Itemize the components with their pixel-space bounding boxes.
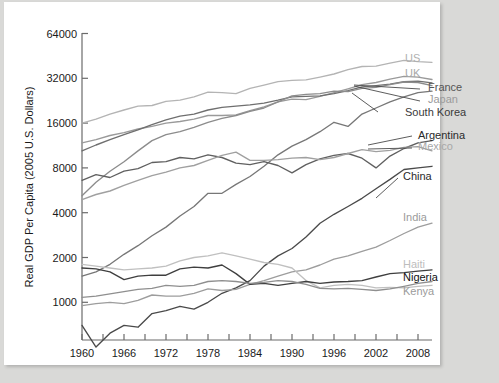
series-label-japan: Japan bbox=[428, 93, 458, 105]
series-label-china: China bbox=[403, 170, 433, 182]
series-line-mexico bbox=[82, 147, 432, 200]
x-tick-label: 1984 bbox=[238, 347, 262, 359]
series-label-france: France bbox=[428, 81, 462, 93]
y-tick-label: 16000 bbox=[46, 117, 77, 129]
y-tick-label: 8000 bbox=[53, 162, 77, 174]
series-label-nigeria: Nigeria bbox=[403, 271, 439, 283]
y-tick-label: 32000 bbox=[46, 72, 77, 84]
leader-argentina bbox=[368, 136, 412, 145]
leader-mexico bbox=[368, 148, 412, 149]
x-tick-labels: 196019661972197819841990199620022008 bbox=[70, 347, 430, 359]
series-label-mexico: Mexico bbox=[418, 140, 453, 152]
series-line-south-korea bbox=[82, 91, 432, 276]
series-label-us: US bbox=[405, 52, 420, 64]
series-lines bbox=[82, 60, 432, 347]
series-label-uk: UK bbox=[405, 67, 421, 79]
x-tick-label: 1990 bbox=[280, 347, 304, 359]
series-label-south-korea: South Korea bbox=[405, 106, 467, 118]
y-axis-title: Real GDP Per Capita (2005 U.S. Dollars) bbox=[23, 87, 35, 288]
y-tick-label: 64000 bbox=[46, 28, 77, 40]
gdp-per-capita-line-chart: 64000 32000 16000 8000 4000 2000 1000 19… bbox=[0, 0, 499, 383]
x-ticks bbox=[82, 334, 418, 340]
x-tick-label: 1960 bbox=[70, 347, 94, 359]
series-line-japan bbox=[82, 82, 432, 196]
series-label-haiti: Haiti bbox=[403, 258, 425, 270]
y-tick-label: 1000 bbox=[53, 296, 77, 308]
series-line-china bbox=[82, 166, 432, 347]
x-tick-label: 1966 bbox=[112, 347, 136, 359]
x-tick-label: 2002 bbox=[364, 347, 388, 359]
series-line-kenya bbox=[82, 281, 432, 298]
series-line-india bbox=[82, 223, 432, 305]
y-tick-label: 4000 bbox=[53, 207, 77, 219]
series-label-kenya: Kenya bbox=[403, 285, 435, 297]
x-tick-label: 1978 bbox=[196, 347, 220, 359]
leader-south-korea bbox=[352, 93, 378, 112]
series-label-india: India bbox=[403, 211, 428, 223]
screenshot-page: 64000 32000 16000 8000 4000 2000 1000 19… bbox=[0, 0, 499, 383]
x-tick-label: 1996 bbox=[322, 347, 346, 359]
x-tick-label: 2008 bbox=[406, 347, 430, 359]
x-tick-label: 1972 bbox=[154, 347, 178, 359]
y-tick-label: 2000 bbox=[53, 252, 77, 264]
